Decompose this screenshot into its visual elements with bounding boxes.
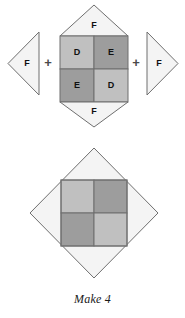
figure-caption: Make 4 <box>0 292 185 307</box>
assembled-quadrant-top-right <box>94 180 127 213</box>
center-quadrant-top-left-label: D <box>74 47 81 57</box>
plus-operator-right: + <box>130 56 142 69</box>
center-bottom-triangle-label: F <box>91 106 97 116</box>
assembled-quadrant-bottom-right <box>94 213 127 246</box>
center-top-triangle-label: F <box>91 20 97 30</box>
assembled-quadrant-top-left <box>61 180 94 213</box>
right-triangle-label: F <box>156 58 162 68</box>
center-quadrant-top-right-label: E <box>108 47 114 57</box>
assembled-block <box>30 148 158 278</box>
assembled-quadrant-bottom-left <box>61 213 94 246</box>
center-unit-piece: F D E E D F <box>60 5 128 127</box>
center-quadrant-bottom-left-label: E <box>74 80 80 90</box>
right-triangle-piece: F <box>147 32 178 95</box>
right-triangle-shape <box>147 32 178 95</box>
left-triangle-piece: F <box>8 32 39 95</box>
quilt-block-diagram: F F D E E D F F <box>0 0 185 318</box>
left-triangle-label: F <box>24 58 30 68</box>
plus-operator-left: + <box>42 56 54 69</box>
diagram-canvas: F F D E E D F F <box>0 0 185 318</box>
center-quadrant-bottom-right-label: D <box>108 80 115 90</box>
